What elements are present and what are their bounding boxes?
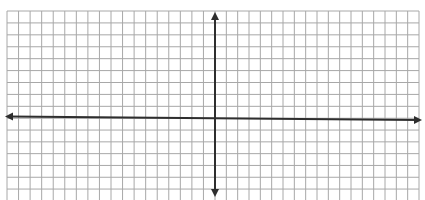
axes [5,12,422,197]
x-axis-left-arrow-icon [5,113,13,121]
coordinate-grid-svg [0,0,425,200]
x-axis-right-arrow-icon [414,116,422,124]
coordinate-plane [0,0,425,200]
y-axis-down-arrow-icon [211,189,219,197]
grid-lines [7,11,419,200]
y-axis-up-arrow-icon [211,12,219,20]
